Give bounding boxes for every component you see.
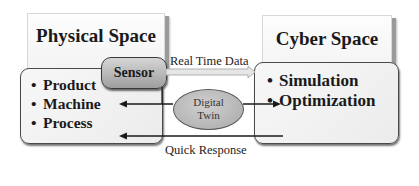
digital-twin-line1: Digital [174,96,243,109]
quick-response-label: Quick Response [165,143,247,158]
arrowhead-left-icon [119,101,127,108]
real-time-data-label: Real Time Data [170,54,248,69]
arrowhead-right-icon [273,101,281,108]
arrowhead-left-icon [119,133,127,140]
digital-twin-line2: Twin [174,109,243,122]
digital-twin-node: Digital Twin [173,89,244,130]
quick-response-arrow [119,133,283,140]
